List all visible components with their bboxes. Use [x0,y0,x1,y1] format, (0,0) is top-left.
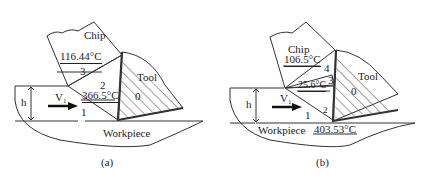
temperature-zone2-b: 403.53°C [314,124,356,135]
zone-label-3-b: 3 [328,75,334,86]
temperature-zone2-a: 366.5°C [82,90,119,103]
zone-label-0-a: 0 [135,91,141,102]
caption-b: (b) [316,157,329,168]
tool-label-a: Tool [137,72,157,83]
zone-label-0-b: 0 [351,86,357,97]
velocity-label-b: V1 [280,93,291,106]
zone-label-3-a: 3 [80,66,86,77]
chip-label-a: Chip [84,30,105,41]
caption-a: (a) [101,157,113,168]
temperature-zone4-b: 106.5°C [284,54,321,67]
zone-label-1-a: 1 [81,107,87,118]
workpiece-label-b: Workpiece [258,125,305,136]
temperature-zone3-b: 25.6°C [298,80,326,92]
workpiece-outline-b [230,88,415,147]
tool-label-b: Tool [358,71,378,82]
workpiece-label-a: Workpiece [103,128,150,139]
diagram-lines [0,0,430,179]
zone-label-4-b: 4 [324,63,330,74]
thickness-label-b: h [246,99,252,110]
zone-label-1-b: 1 [305,110,311,121]
temperature-zone3-a: 116.44°C [60,51,102,64]
zone-label-2-b: 2 [323,106,328,115]
thickness-label-a: h [21,97,27,108]
velocity-label-a: V1 [55,92,66,105]
